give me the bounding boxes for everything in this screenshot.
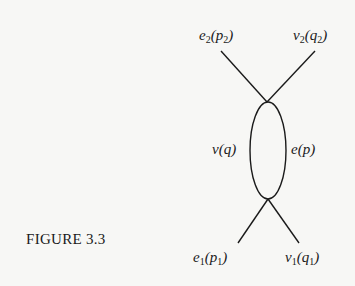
label-symbol: v — [285, 249, 292, 265]
edge-top-right — [267, 51, 315, 102]
label-v-q: v(q) — [212, 142, 236, 157]
label-arg-sub: 1 — [217, 256, 222, 267]
label-sub: 2 — [206, 34, 211, 45]
label-sub: 1 — [200, 256, 205, 267]
label-arg-sub: 1 — [309, 256, 314, 267]
edge-top-left — [221, 51, 267, 102]
figure-caption: FIGURE 3.3 — [26, 231, 106, 248]
label-symbol: e — [193, 249, 200, 265]
label-sub: 2 — [300, 34, 305, 45]
edge-bottom-right — [268, 199, 299, 243]
loop — [250, 102, 286, 199]
label-e1-p1: e1(p1) — [193, 250, 227, 267]
edge-bottom-left — [238, 199, 268, 243]
label-e-p: e(p) — [291, 142, 315, 157]
label-v1-q1: v1(q1) — [285, 250, 319, 267]
label-symbol: e — [199, 27, 206, 43]
label-symbol: v — [293, 27, 300, 43]
label-arg-sub: 2 — [317, 34, 322, 45]
label-e2-p2: e2(p2) — [199, 28, 233, 45]
label-v2-q2: v2(q2) — [293, 28, 327, 45]
label-arg-sub: 2 — [223, 34, 228, 45]
label-sub: 1 — [292, 256, 297, 267]
